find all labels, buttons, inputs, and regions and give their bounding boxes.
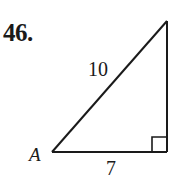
vertex-a-label: A (27, 144, 41, 165)
triangle-outline (52, 21, 167, 152)
hypotenuse-side (52, 21, 167, 152)
base-label: 7 (106, 157, 116, 179)
hypotenuse-label: 10 (88, 58, 108, 80)
right-triangle-figure: 10 7 A (0, 0, 196, 183)
right-angle-marker (152, 137, 167, 152)
